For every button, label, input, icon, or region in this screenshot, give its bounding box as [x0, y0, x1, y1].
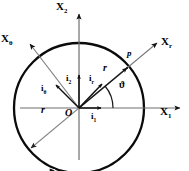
unit-vector-ir-label: ir: [89, 74, 94, 85]
unit-vector-itheta-arrow: [56, 85, 79, 108]
origin-label: O: [65, 108, 72, 118]
unit-vector-ir-arrow: [79, 84, 102, 108]
x1-axis-label: X1: [160, 106, 171, 120]
angle-theta-label: ϑ: [119, 80, 125, 90]
unit-vector-i2-label: i2: [66, 74, 71, 85]
polar-coordinate-diagram: X1 X2 Xr Xθ i1 i2 ir iθ p r r ϑ O: [0, 0, 189, 171]
xtheta-axis-line: [30, 44, 79, 108]
x2-axis-label: X2: [56, 1, 67, 15]
xr-axis-label: Xr: [161, 36, 172, 50]
point-p-marker: [126, 67, 128, 69]
position-vector-r-label: r: [103, 63, 107, 73]
xtheta-axis-label: Xθ: [1, 33, 13, 47]
radius-r-label: r: [41, 105, 45, 115]
diagram-canvas: [0, 0, 189, 171]
unit-vector-i1-label: i1: [91, 112, 96, 123]
unit-vector-itheta-label: iθ: [41, 84, 46, 95]
point-p-label: p: [127, 49, 132, 58]
angle-theta-arc: [105, 86, 113, 108]
